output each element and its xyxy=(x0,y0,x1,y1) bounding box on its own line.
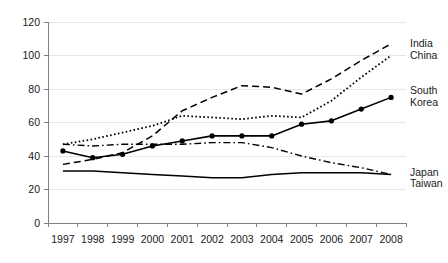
series-label-south-korea-line2: Korea xyxy=(410,96,438,108)
x-tick-label: 2004 xyxy=(260,233,284,245)
series-label-taiwan: Taiwan xyxy=(410,177,443,189)
x-tick-label: 2007 xyxy=(350,233,374,245)
data-point-marker xyxy=(180,138,185,143)
y-tick-label: 80 xyxy=(28,83,40,95)
data-point-marker xyxy=(388,95,393,100)
y-tick-label: 40 xyxy=(28,150,40,162)
data-point-marker xyxy=(269,133,274,138)
y-tick-label: 20 xyxy=(28,183,40,195)
series-label-south-korea-line1: South xyxy=(410,84,438,96)
x-tick-label: 2005 xyxy=(290,233,314,245)
x-tick-label: 2008 xyxy=(379,233,403,245)
data-point-marker xyxy=(359,107,364,112)
chart-background xyxy=(0,0,448,263)
data-point-marker xyxy=(60,148,65,153)
x-tick-label: 1998 xyxy=(81,233,105,245)
data-point-marker xyxy=(299,122,304,127)
y-tick-label: 0 xyxy=(34,217,40,229)
data-point-marker xyxy=(209,133,214,138)
x-tick-label: 2000 xyxy=(141,233,165,245)
series-label-china: China xyxy=(410,49,438,61)
y-tick-label: 100 xyxy=(22,49,40,61)
x-tick-label: 1999 xyxy=(111,233,135,245)
data-point-marker xyxy=(150,143,155,148)
y-tick-label: 60 xyxy=(28,116,40,128)
y-tick-label: 120 xyxy=(22,16,40,28)
x-tick-label: 2002 xyxy=(200,233,224,245)
line-chart: 020406080100120 199719981999200020012002… xyxy=(0,0,448,263)
data-point-marker xyxy=(239,133,244,138)
chart-canvas: 020406080100120 199719981999200020012002… xyxy=(0,0,448,263)
x-tick-label: 2006 xyxy=(320,233,344,245)
x-tick-label: 2001 xyxy=(171,233,195,245)
series-label-india: India xyxy=(410,37,433,49)
data-point-marker xyxy=(120,152,125,157)
x-tick-label: 2003 xyxy=(230,233,254,245)
data-point-marker xyxy=(329,118,334,123)
x-tick-label: 1997 xyxy=(51,233,75,245)
data-point-marker xyxy=(90,155,95,160)
